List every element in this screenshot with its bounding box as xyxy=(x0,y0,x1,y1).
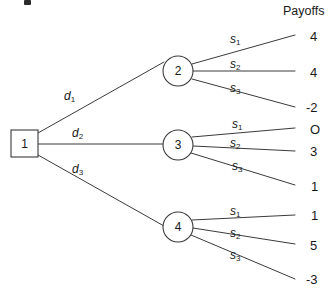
branch-label-d1: d1 xyxy=(64,90,75,102)
edge-n2-s1 xyxy=(192,35,295,64)
state-label-n2-s2: s2 xyxy=(230,58,240,70)
payoff-n3-s1: O xyxy=(310,123,320,136)
payoff-n4-s2: 5 xyxy=(310,239,317,252)
branch-label-d3: d3 xyxy=(72,163,83,175)
payoff-n3-s2: 3 xyxy=(310,145,317,158)
state-label-n2-s2-sub: 2 xyxy=(236,63,240,72)
payoffs-header: Payoffs xyxy=(283,5,324,18)
state-label-n3-s3: s3 xyxy=(232,160,242,172)
branch-label-d1-sub: 1 xyxy=(71,95,75,104)
state-label-n3-s1-sub: 1 xyxy=(238,123,242,132)
payoff-n4-s1: 1 xyxy=(311,209,318,222)
branch-label-d1-base: d xyxy=(64,89,71,103)
state-label-n3-s2-sub: 2 xyxy=(236,142,240,151)
chance-node-3-label: 3 xyxy=(163,139,193,151)
payoff-n2-s2: 4 xyxy=(310,66,317,79)
branch-label-d2-base: d xyxy=(72,126,79,140)
edge-n4-s2 xyxy=(193,228,295,244)
branch-label-d2: d2 xyxy=(72,127,83,139)
payoff-n3-s3: 1 xyxy=(311,180,318,193)
edge-n3-s3 xyxy=(191,153,295,185)
edge-d3 xyxy=(38,155,164,226)
state-label-n4-s2-sub: 2 xyxy=(236,232,240,241)
state-label-n3-s3-sub: 3 xyxy=(238,165,242,174)
payoff-n2-s3: -2 xyxy=(306,101,318,114)
state-label-n3-s1: s1 xyxy=(232,118,242,130)
branch-label-d3-base: d xyxy=(72,162,79,176)
state-label-n4-s3: s3 xyxy=(230,249,240,261)
payoff-n2-s1: 4 xyxy=(310,30,317,43)
state-label-n2-s1-sub: 1 xyxy=(236,38,240,47)
chance-node-2-label: 2 xyxy=(163,65,193,77)
state-label-n4-s3-sub: 3 xyxy=(236,254,240,263)
payoff-n4-s3: -3 xyxy=(306,273,318,286)
state-label-n2-s1: s1 xyxy=(230,33,240,45)
state-label-n4-s2: s2 xyxy=(230,227,240,239)
decision-node-1-label: 1 xyxy=(11,138,38,150)
edge-n3-s1 xyxy=(192,128,295,137)
edge-d1 xyxy=(38,62,164,133)
edge-n4-s1 xyxy=(192,215,295,220)
state-label-n4-s1-sub: 1 xyxy=(236,210,240,219)
branch-label-d2-sub: 2 xyxy=(79,132,83,141)
state-label-n3-s2: s2 xyxy=(230,137,240,149)
branch-label-d3-sub: 3 xyxy=(79,168,83,177)
state-label-n2-s3-sub: 3 xyxy=(236,87,240,96)
state-label-n2-s3: s3 xyxy=(230,82,240,94)
edge-n2-s3 xyxy=(192,79,295,107)
state-label-n4-s1: s1 xyxy=(230,205,240,217)
edge-n3-s2 xyxy=(193,146,295,151)
chance-node-4-label: 4 xyxy=(163,221,193,233)
decision-tree-figure: 1 2 3 4 d1 d2 d3 s1 s2 s3 s1 s2 s3 s1 s2… xyxy=(0,0,334,297)
